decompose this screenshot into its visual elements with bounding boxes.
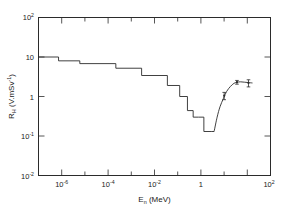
x-tick-label-4: 102 [263, 179, 274, 189]
y-axis-ticks-right [265, 57, 271, 136]
x-tick-label-1: 10-4 [102, 179, 115, 189]
staircase-curve [39, 57, 215, 132]
y-tick-label-2: 1 [30, 93, 34, 102]
plot-frame [39, 18, 271, 176]
x-tick-labels: 10-6 10-4 10-2 1 102 [55, 179, 275, 189]
y-tick-labels: 102 10 1 10-1 10-2 [21, 12, 34, 181]
x-axis-title: En (MeV) [138, 195, 171, 205]
data-point-error-bar [247, 80, 251, 87]
y-tick-label-4: 10-2 [21, 171, 34, 181]
x-tick-label-2: 10-2 [148, 179, 161, 189]
x-tick-label-0: 10-6 [55, 179, 68, 189]
y-axis-title: RH (V.mSv-1) [6, 74, 17, 119]
log-log-chart: 10-6 10-4 10-2 1 102 102 10 1 10-1 10-2 … [0, 0, 286, 212]
data-point-marker [236, 81, 238, 83]
data-point-marker [223, 95, 225, 97]
y-tick-label-0: 102 [23, 12, 34, 22]
y-tick-label-3: 10-1 [21, 131, 34, 141]
rising-branch-curve [214, 82, 252, 132]
x-tick-label-3: 1 [199, 180, 203, 189]
x-axis-ticks [39, 170, 271, 176]
y-tick-label-1: 10 [26, 53, 34, 62]
x-axis-ticks-top [62, 18, 248, 24]
data-point-marker [247, 82, 249, 84]
figure-container: 10-6 10-4 10-2 1 102 102 10 1 10-1 10-2 … [0, 0, 286, 212]
data-curves [39, 57, 253, 132]
y-axis-ticks [39, 18, 45, 176]
